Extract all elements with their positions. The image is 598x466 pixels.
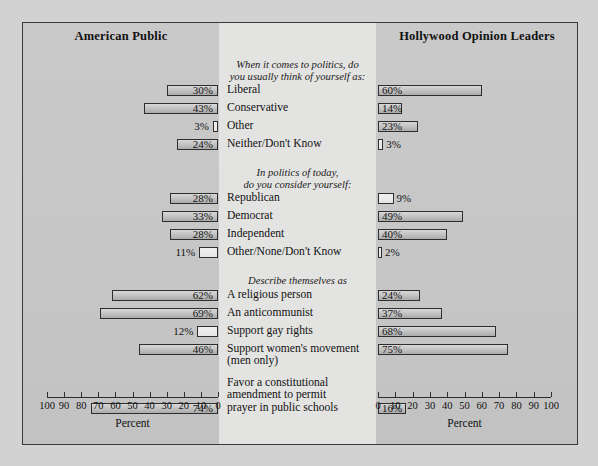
bar-left-value: 62% (112, 290, 213, 301)
bar-right (378, 193, 394, 204)
bar-left-value: 24% (177, 139, 213, 150)
bar-right (378, 139, 383, 150)
bar-right-value: 40% (382, 229, 446, 240)
figure-root: American Public Hollywood Opinion Leader… (0, 0, 598, 466)
bar-left (199, 247, 218, 258)
group-header-line: you usually think of yourself as: (219, 71, 376, 83)
left-axis-tick (150, 392, 151, 397)
left-axis-tick (115, 392, 116, 397)
bar-left-value: 46% (139, 344, 213, 355)
right-axis-tick-label: 100 (539, 400, 563, 411)
bar-right-value: 23% (382, 121, 417, 132)
right-axis-title: Percent (378, 417, 551, 429)
item-label: Liberal (227, 84, 376, 96)
right-axis-tick (499, 392, 500, 397)
item-label: Other/None/Don't Know (227, 246, 376, 258)
right-axis-tick (413, 392, 414, 397)
item-label: Democrat (227, 210, 376, 222)
bar-left-value: 69% (100, 308, 213, 319)
bar-right-value: 3% (386, 139, 428, 150)
item-label: Neither/Don't Know (227, 138, 376, 150)
left-panel-title: American Public (23, 29, 219, 44)
right-axis-tick (534, 392, 535, 397)
right-axis-tick (482, 392, 483, 397)
right-axis-tick (395, 392, 396, 397)
item-label: A religious person (227, 289, 376, 301)
chart-frame: American Public Hollywood Opinion Leader… (22, 22, 578, 445)
item-label: Republican (227, 192, 376, 204)
bar-right (378, 247, 382, 258)
bar-left-value: 28% (170, 193, 213, 204)
group-header-line: do you consider yourself: (219, 179, 376, 191)
item-label: amendment to permit (227, 389, 376, 401)
right-axis-tick (378, 392, 379, 397)
bar-right-value: 24% (382, 290, 419, 301)
left-axis-tick (64, 392, 65, 397)
left-axis-tick (184, 392, 185, 397)
left-axis-title: Percent (47, 417, 218, 429)
bar-left-value: 43% (144, 103, 213, 114)
item-label: Independent (227, 228, 376, 240)
left-axis-tick (167, 392, 168, 397)
bar-left-value: 12% (151, 326, 193, 337)
item-label: Support gay rights (227, 325, 376, 337)
right-axis-tick (551, 392, 552, 397)
left-axis-tick (201, 392, 202, 397)
item-label: An anticommunist (227, 307, 376, 319)
bar-left-value: 3% (167, 121, 209, 132)
group-header-line: In politics of today, (219, 167, 376, 179)
left-axis-tick (47, 392, 48, 397)
left-axis-tick (133, 392, 134, 397)
bar-right-value: 49% (382, 211, 462, 222)
bar-right-value: 75% (382, 344, 507, 355)
left-axis-tick-label: 0 (206, 400, 230, 411)
bar-left-value: 11% (153, 247, 195, 258)
bar-right-value: 60% (382, 85, 481, 96)
item-label: prayer in public schools (227, 402, 376, 414)
left-axis-tick (218, 392, 219, 397)
right-axis-tick (447, 392, 448, 397)
bar-left (197, 326, 218, 337)
bar-right-value: 37% (382, 308, 441, 319)
bar-left-value: 28% (170, 229, 213, 240)
item-label: Conservative (227, 102, 376, 114)
bar-right-value: 2% (385, 247, 427, 258)
bar-right-value: 9% (397, 193, 439, 204)
item-label: Other (227, 120, 376, 132)
group-header-line: Describe themselves as (219, 275, 376, 287)
left-axis-tick (98, 392, 99, 397)
right-axis-tick (465, 392, 466, 397)
bar-left-value: 33% (162, 211, 213, 222)
bar-right-value: 14% (382, 103, 401, 114)
left-axis-line (47, 397, 218, 398)
group-header-line: When it comes to politics, do (219, 59, 376, 71)
right-axis-tick (430, 392, 431, 397)
item-label: (men only) (227, 355, 376, 367)
bar-left-value: 30% (167, 85, 213, 96)
bar-right-value: 68% (382, 326, 495, 337)
center-label-column: When it comes to politics, doyou usually… (219, 23, 376, 444)
right-panel-title: Hollywood Opinion Leaders (376, 29, 578, 44)
bar-left (213, 121, 218, 132)
left-axis-tick (81, 392, 82, 397)
right-axis-line (378, 397, 551, 398)
right-axis-tick (516, 392, 517, 397)
